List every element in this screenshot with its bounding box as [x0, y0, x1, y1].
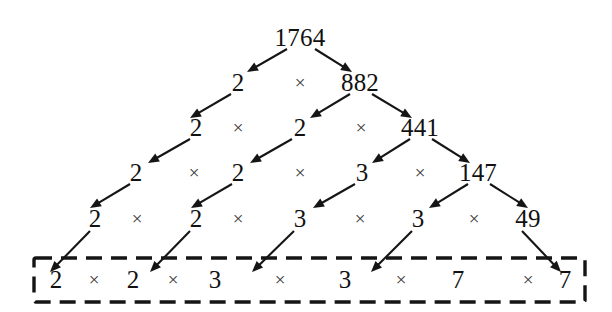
branch-arrow-line-11 [320, 184, 355, 204]
factor-node-3-level-5: 3 [294, 206, 307, 231]
multiplication-sign-icon: × [89, 270, 100, 289]
branch-arrow-line-4 [372, 94, 405, 114]
branch-arrow-line-2 [197, 94, 231, 114]
factor-node-3-level-6: 3 [339, 267, 352, 292]
branch-arrow-head-6 [250, 154, 262, 163]
branch-arrow-head-7 [372, 153, 384, 163]
branch-arrow-line-5 [155, 139, 190, 159]
multiplication-sign-icon: × [233, 118, 244, 137]
multiplication-sign-icon: × [168, 270, 179, 289]
branch-arrow-head-3 [310, 108, 322, 118]
branch-arrow-head-12 [429, 198, 441, 208]
branch-arrow-line-15 [156, 231, 190, 266]
branch-arrow-head-15 [150, 261, 161, 272]
factor-node-2-level-5: 2 [89, 206, 102, 231]
multiplication-sign-icon: × [396, 270, 407, 289]
factor-node-3-level-4: 3 [356, 160, 369, 185]
branch-arrow-line-12 [436, 184, 468, 204]
branch-arrow-line-3 [317, 94, 350, 114]
factor-node-441-level-3: 441 [401, 115, 439, 140]
factor-node-49-level-5: 49 [515, 206, 540, 231]
multiplication-sign-icon: × [132, 209, 143, 228]
factor-node-2-level-3: 2 [190, 115, 203, 140]
factor-node-2-level-3: 2 [294, 115, 307, 140]
branch-arrow-line-13 [490, 184, 521, 204]
multiplication-sign-icon: × [295, 73, 306, 92]
factor-node-2-level-4: 2 [130, 160, 143, 185]
multiplication-sign-icon: × [275, 270, 286, 289]
branch-arrow-line-16 [258, 231, 294, 266]
branch-arrow-head-16 [252, 261, 263, 272]
branch-arrow-line-10 [198, 184, 232, 204]
factor-node-7-level-6: 7 [452, 267, 465, 292]
branch-arrow-line-0 [254, 49, 287, 68]
factor-node-2-level-5: 2 [190, 206, 203, 231]
branch-arrow-line-6 [257, 139, 292, 159]
branch-arrow-line-8 [432, 139, 463, 159]
branch-arrow-line-14 [56, 231, 90, 266]
multiplication-sign-icon: × [415, 163, 426, 182]
branch-arrow-line-9 [97, 184, 130, 204]
branch-arrow-line-17 [377, 231, 412, 266]
factor-node-2-level-6: 2 [50, 267, 63, 292]
multiplication-sign-icon: × [295, 163, 306, 182]
branch-arrow-line-7 [379, 139, 410, 159]
multiplication-sign-icon: × [356, 118, 367, 137]
multiplication-sign-icon: × [355, 209, 366, 228]
factor-node-882-level-2: 882 [341, 70, 379, 95]
factor-node-147-level-4: 147 [459, 160, 497, 185]
factor-tree-figure: 17642882×22441××223147×××223349××××22337… [0, 0, 612, 312]
branch-arrow-head-0 [247, 63, 259, 72]
factor-node-1764-level-1: 1764 [275, 25, 326, 50]
factor-node-2-level-2: 2 [232, 70, 245, 95]
factor-node-2-level-4: 2 [232, 160, 245, 185]
factor-node-3-level-5: 3 [412, 206, 425, 231]
multiplication-sign-icon: × [189, 163, 200, 182]
branch-arrow-head-5 [148, 154, 160, 163]
factor-node-3-level-6: 3 [209, 267, 222, 292]
multiplication-sign-icon: × [523, 270, 534, 289]
branch-arrow-head-17 [371, 261, 382, 272]
multiplication-sign-icon: × [469, 209, 480, 228]
branch-arrow-head-11 [313, 199, 325, 208]
branch-arrow-line-1 [315, 49, 345, 68]
factor-node-7-level-6: 7 [559, 267, 572, 292]
multiplication-sign-icon: × [233, 209, 244, 228]
prime-factorization-box [34, 258, 585, 302]
factor-node-2-level-6: 2 [127, 267, 140, 292]
branch-arrow-line-18 [522, 231, 555, 266]
